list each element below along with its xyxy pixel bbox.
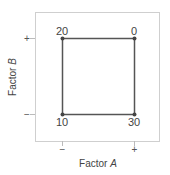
x-tick-plus-label: + [132,144,138,155]
value-label-bottom-left: 10 [56,116,68,128]
value-label-bottom-right: 30 [128,116,140,128]
x-axis-title-var: A [109,158,117,169]
y-tick-minus-label: − [24,109,30,120]
value-label-top-right: 0 [131,25,137,37]
y-axis-title: Factor B [7,58,18,96]
y-axis-title-prefix: Factor [7,65,18,96]
point-a-minus-b-plus [61,37,65,41]
point-a-plus-b-plus [133,37,137,41]
plot-frame [36,13,160,142]
value-label-top-left: 20 [56,25,68,37]
factorial-design-diagram: + − − + 20 0 10 30 Factor A Factor B [0,0,170,175]
x-axis-title-prefix: Factor [79,158,110,169]
y-axis-title-var: B [7,58,18,65]
x-axis-title: Factor A [79,158,117,169]
y-tick-plus-label: + [24,33,30,44]
design-square [63,39,135,115]
x-tick-minus-label: − [60,144,66,155]
